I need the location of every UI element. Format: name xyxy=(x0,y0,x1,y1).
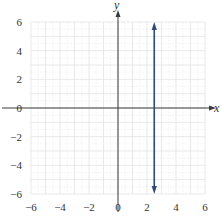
line-arrow-down-icon xyxy=(152,186,157,194)
y-tick-label: 4 xyxy=(17,45,23,57)
x-tick-label: −2 xyxy=(83,201,95,213)
y-tick-label: −4 xyxy=(10,159,22,171)
y-tick-label: −6 xyxy=(10,188,22,200)
chart: −6−4−20246−6−4−20246 x y xyxy=(0,0,222,217)
y-tick-label: 6 xyxy=(17,16,23,28)
x-tick-label: 0 xyxy=(115,201,121,213)
x-tick-label: −4 xyxy=(54,201,66,213)
y-axis-label: y xyxy=(113,0,120,12)
line-arrow-up-icon xyxy=(152,22,157,30)
x-tick-label: 6 xyxy=(202,201,208,213)
axes xyxy=(2,10,216,212)
y-tick-label: 0 xyxy=(17,102,23,114)
x-tick-label: 4 xyxy=(173,201,179,213)
y-tick-label: −2 xyxy=(10,131,22,143)
x-axis-label: x xyxy=(213,101,220,115)
tick-labels: −6−4−20246−6−4−20246 xyxy=(10,16,208,213)
x-tick-label: −6 xyxy=(25,201,37,213)
y-tick-label: 2 xyxy=(17,73,23,85)
x-tick-label: 2 xyxy=(144,201,150,213)
